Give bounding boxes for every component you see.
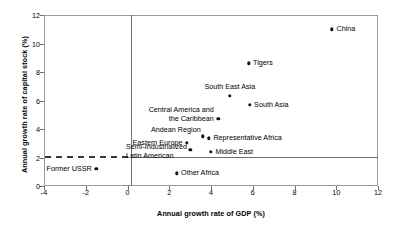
y-tick-mark <box>40 186 44 187</box>
y-tick-mark <box>40 158 44 159</box>
x-tick-label: 6 <box>251 188 255 197</box>
y-tick-label: 6 <box>16 96 40 105</box>
x-axis-title: Annual growth rate of GDP (%) <box>44 209 378 218</box>
data-point-label: Former USSR <box>47 165 92 174</box>
y-tick-label: 2 <box>16 153 40 162</box>
x-tick-label: 4 <box>209 188 213 197</box>
x-tick-label: 2 <box>167 188 171 197</box>
y-tick-label: 0 <box>16 182 40 191</box>
y-tick-mark <box>40 101 44 102</box>
data-point-label: Other Africa <box>181 169 219 178</box>
data-point-label: South Asia <box>254 100 288 109</box>
data-point-label: Middle East <box>216 148 254 157</box>
data-point-label: Tigers <box>253 59 273 68</box>
data-point-label: South East Asia <box>204 83 255 92</box>
data-point-label: Central America and the Caribbean <box>149 106 214 123</box>
horizontal-reference-line-dashed <box>45 156 131 158</box>
data-point-label: Representative Africa <box>213 134 281 143</box>
y-tick-label: 12 <box>16 11 40 20</box>
y-tick-label: 8 <box>16 68 40 77</box>
x-tick-label: -2 <box>83 188 89 197</box>
y-tick-mark <box>40 72 44 73</box>
x-tick-label: 12 <box>374 188 382 197</box>
data-point-label: China <box>337 25 356 34</box>
data-point-label: Andean Region <box>151 126 201 135</box>
data-point-label: Semi-Industrialized Latin American <box>126 144 187 161</box>
y-tick-mark <box>40 44 44 45</box>
scatter-chart: Annual growth rate of capital stock (%) … <box>0 0 407 226</box>
y-tick-label: 10 <box>16 39 40 48</box>
x-tick-label: 8 <box>293 188 297 197</box>
x-tick-label: 10 <box>332 188 340 197</box>
y-tick-mark <box>40 129 44 130</box>
x-tick-label: 0 <box>126 188 130 197</box>
y-tick-label: 4 <box>16 125 40 134</box>
plot-area <box>44 15 378 186</box>
y-tick-mark <box>40 15 44 16</box>
x-tick-label: -4 <box>41 188 47 197</box>
